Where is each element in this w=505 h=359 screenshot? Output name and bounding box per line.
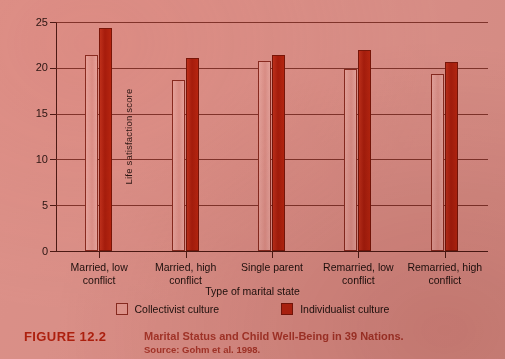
y-tick-label-10: 10 — [22, 154, 48, 165]
bar-collectivist-4 — [431, 74, 444, 251]
legend-item-collectivist: Collectivist culture — [116, 303, 220, 315]
legend-swatch-individualist-icon — [281, 303, 293, 315]
y-tick-label-15: 15 — [22, 108, 48, 119]
x-tick-mark-0 — [99, 251, 100, 258]
caption-source: Source: Gohm et al. 1998. — [144, 343, 497, 356]
chart-legend: Collectivist culture Individualist cultu… — [0, 303, 505, 315]
y-tick-label-25: 25 — [22, 17, 48, 28]
bar-individualist-4 — [445, 62, 458, 251]
figure-number: FIGURE 12.2 — [24, 329, 144, 344]
caption-body: Marital Status and Child Well-Being in 3… — [144, 329, 497, 356]
bar-individualist-2 — [272, 55, 285, 251]
y-tick-mark-25 — [50, 22, 56, 23]
bar-group-1 — [172, 22, 200, 251]
legend-label-individualist: Individualist culture — [300, 303, 389, 315]
bar-individualist-3 — [358, 50, 371, 252]
bar-group-2 — [258, 22, 286, 251]
y-tick-mark-15 — [50, 114, 56, 115]
y-tick-mark-5 — [50, 205, 56, 206]
plot-area: 0510152025 — [56, 22, 488, 251]
y-tick-label-5: 5 — [22, 200, 48, 211]
y-tick-label-20: 20 — [22, 62, 48, 73]
y-tick-mark-20 — [50, 68, 56, 69]
x-tick-mark-3 — [358, 251, 359, 258]
x-axis-title: Type of marital state — [0, 285, 505, 297]
y-tick-mark-0 — [50, 251, 56, 252]
x-category-label-4: Remarried, high conflict — [390, 261, 500, 286]
bar-individualist-0 — [99, 28, 112, 252]
bar-collectivist-2 — [258, 61, 271, 252]
bar-group-4 — [431, 22, 459, 251]
x-tick-mark-4 — [445, 251, 446, 258]
x-tick-mark-1 — [186, 251, 187, 258]
legend-item-individualist: Individualist culture — [281, 303, 389, 315]
y-axis-line — [56, 22, 57, 251]
legend-label-collectivist: Collectivist culture — [135, 303, 220, 315]
y-tick-mark-10 — [50, 159, 56, 160]
bar-collectivist-0 — [85, 55, 98, 251]
figure-12-2: Life satisfaction score 0510152025 Marri… — [0, 0, 505, 359]
bar-collectivist-3 — [344, 69, 357, 251]
bar-group-3 — [344, 22, 372, 251]
x-tick-mark-2 — [272, 251, 273, 258]
bar-collectivist-1 — [172, 80, 185, 251]
figure-caption: FIGURE 12.2 Marital Status and Child Wel… — [24, 329, 497, 356]
bar-individualist-1 — [186, 58, 199, 251]
caption-title: Marital Status and Child Well-Being in 3… — [144, 329, 497, 343]
y-tick-label-0: 0 — [22, 246, 48, 257]
legend-swatch-collectivist-icon — [116, 303, 128, 315]
bar-group-0 — [85, 22, 113, 251]
